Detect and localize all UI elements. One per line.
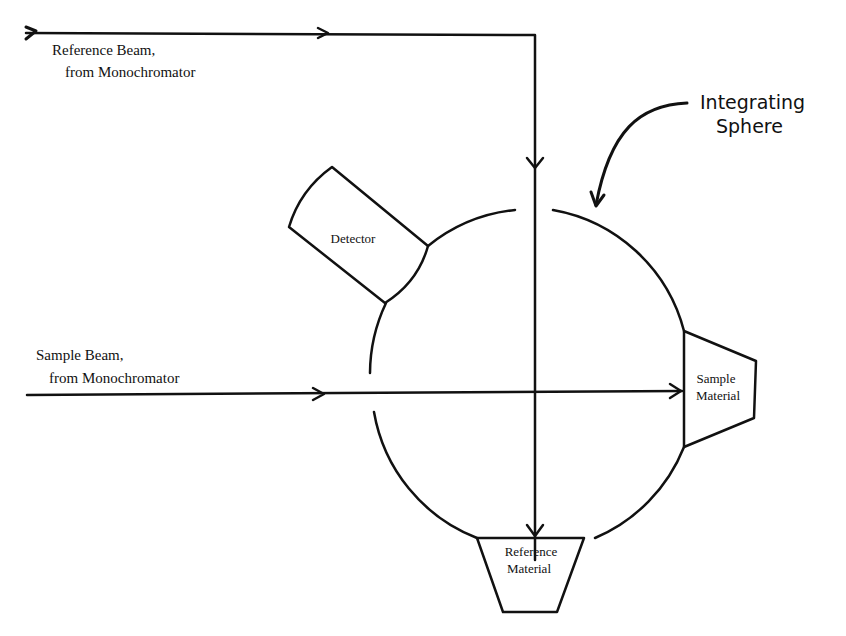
reference-material: Reference Material <box>477 538 584 612</box>
integrating-sphere <box>370 210 684 538</box>
reference-material-label-2: Material <box>507 561 551 576</box>
detector-label: Detector <box>331 231 376 246</box>
reference-material-label-1: Reference <box>505 544 558 559</box>
sample-beam-path <box>27 384 682 400</box>
reference-beam-label-2: from Monochromator <box>65 64 195 80</box>
sample-beam-label-1: Sample Beam, <box>36 347 123 363</box>
integrating-sphere-diagram: Detector Sample Material Reference Mater… <box>0 0 846 636</box>
integrating-sphere-label-1: Integrating <box>700 91 805 113</box>
integrating-sphere-label-2: Sphere <box>716 115 783 137</box>
sample-material: Sample Material <box>684 331 756 447</box>
pointer-arrow <box>591 103 687 206</box>
detector: Detector <box>289 167 428 303</box>
sample-beam-label-2: from Monochromator <box>49 370 179 386</box>
reference-beam-label-1: Reference Beam, <box>52 42 155 58</box>
reference-beam-path <box>26 27 543 560</box>
sample-material-label-2: Material <box>696 388 740 403</box>
sample-material-label-1: Sample <box>697 371 736 386</box>
